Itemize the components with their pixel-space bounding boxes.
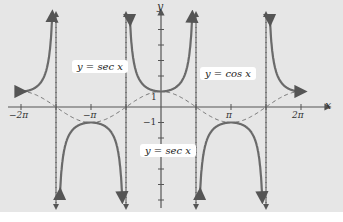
tick-label-neg-2pi: −2π — [9, 110, 28, 120]
tick-label-2pi: 2π — [292, 110, 304, 120]
label-cos: y = cos x — [200, 67, 256, 80]
label-text: y = sec x — [77, 61, 123, 72]
label-sec-top: y = sec x — [72, 60, 128, 73]
tick-label-pi: π — [226, 110, 232, 120]
label-sec-bottom: y = sec x — [140, 144, 196, 157]
sec-cos-plot — [0, 0, 343, 212]
label-text: y = cos x — [205, 68, 251, 79]
y-axis-label: y — [157, 0, 163, 13]
figure: y = sec x y = cos x y = sec x x y −2π −π… — [0, 0, 343, 212]
label-text: y = sec x — [145, 145, 191, 156]
tick-label-neg-pi: −π — [83, 110, 96, 120]
x-axis-label: x — [325, 99, 331, 112]
tick-label-y1: 1 — [151, 92, 157, 102]
tick-label-ym1: −1 — [143, 117, 156, 127]
